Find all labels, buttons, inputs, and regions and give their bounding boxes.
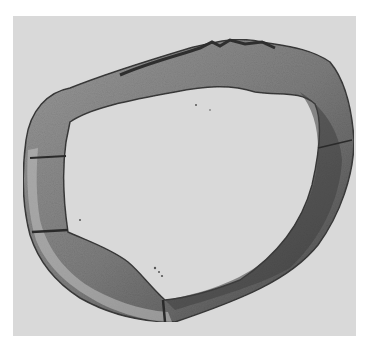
tissue-cross-section [0, 0, 369, 341]
tissue-dark-band [165, 92, 342, 310]
